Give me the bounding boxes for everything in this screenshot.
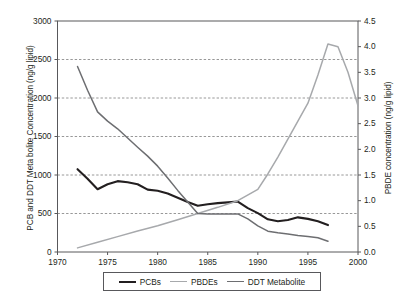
x-axis-tick-label: 1970 <box>38 257 78 267</box>
series-line-ddt-metabolite <box>78 66 328 241</box>
y2-axis-tick-label: 2.0 <box>364 144 398 154</box>
x-axis-tick-label: 1980 <box>138 257 178 267</box>
chart-legend: PCBsPBDEsDDT Metabolite <box>103 272 321 291</box>
y2-axis-tick-label: 0.5 <box>364 221 398 231</box>
x-axis-tick-label: 1985 <box>188 257 228 267</box>
x-axis-tick-label: 1990 <box>238 257 278 267</box>
legend-item[interactable]: PBDEs <box>170 277 218 287</box>
y-axis-tick-label: 3000 <box>18 16 52 26</box>
chart-container: PCB and DDT Meta bolite Concentration (n… <box>0 0 411 303</box>
y-axis-tick-label: 2500 <box>18 54 52 64</box>
y-axis-tick-label: 500 <box>18 208 52 218</box>
y-axis-tick-label: 0 <box>18 247 52 257</box>
series-line-pbdes <box>78 44 358 248</box>
y2-axis-tick-label: 4.5 <box>364 16 398 26</box>
y2-axis-tick-label: 0.0 <box>364 247 398 257</box>
legend-label: PCBs <box>140 277 161 287</box>
y-axis-tick-label: 1000 <box>18 170 52 180</box>
legend-label: PBDEs <box>191 277 218 287</box>
legend-swatch-icon <box>119 281 136 283</box>
y2-axis-tick-label: 2.5 <box>364 118 398 128</box>
y2-axis-tick-label: 1.0 <box>364 195 398 205</box>
series-line-pcbs <box>78 169 328 225</box>
legend-swatch-icon <box>227 281 244 282</box>
y2-axis-tick-label: 3.0 <box>364 93 398 103</box>
legend-item[interactable]: DDT Metabolite <box>227 277 306 287</box>
legend-item[interactable]: PCBs <box>119 277 161 287</box>
x-axis-tick-label: 1995 <box>288 257 328 267</box>
y-axis-tick-label: 1500 <box>18 131 52 141</box>
legend-swatch-icon <box>170 281 187 282</box>
y2-axis-tick-label: 4.0 <box>364 41 398 51</box>
y2-axis-tick-label: 3.5 <box>364 67 398 77</box>
x-axis-tick-label: 1975 <box>88 257 128 267</box>
legend-label: DDT Metabolite <box>248 277 306 287</box>
y2-axis-tick-label: 1.5 <box>364 170 398 180</box>
x-axis-tick-label: 2000 <box>338 257 378 267</box>
y-axis-tick-label: 2000 <box>18 93 52 103</box>
